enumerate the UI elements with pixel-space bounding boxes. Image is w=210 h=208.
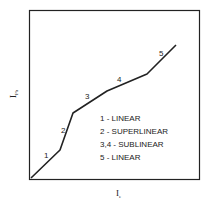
segment-label: 5 <box>159 49 164 58</box>
legend-entry: 1 - LINEAR <box>100 114 141 123</box>
legend-entry: 2 - SUPERLINEAR <box>100 127 168 136</box>
x-axis-label: Ie <box>116 188 122 199</box>
segment-label: 2 <box>61 126 66 135</box>
legend-entry: 5 - LINEAR <box>100 153 141 162</box>
legend-entry: 3,4 - SUBLINEAR <box>100 140 164 149</box>
segment-label: 4 <box>117 75 122 84</box>
segment-label: 1 <box>44 151 49 160</box>
legend: 1 - LINEAR2 - SUPERLINEAR3,4 - SUBLINEAR… <box>100 114 168 162</box>
chart: 12345 1 - LINEAR2 - SUPERLINEAR3,4 - SUB… <box>0 0 210 208</box>
y-axis-label: IPh <box>8 89 19 98</box>
segment-label: 3 <box>85 92 90 101</box>
